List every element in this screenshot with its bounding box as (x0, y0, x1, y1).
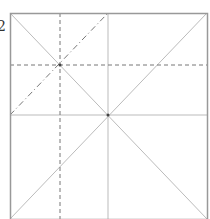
intersection-point (59, 64, 62, 67)
fold-diagram (0, 0, 210, 219)
intersection-point (107, 114, 110, 117)
